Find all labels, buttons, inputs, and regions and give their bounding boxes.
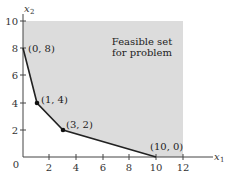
feasible-set-chart: 2 4 6 8 10 12 0 2 4 6 8 10 x 2 x 1 (0, 8… — [0, 0, 237, 185]
svg-text:2: 2 — [30, 8, 34, 16]
x-tick-label: 2 — [46, 162, 52, 173]
point-label-3-2: (3, 2) — [66, 119, 93, 130]
x-tick-label: 4 — [73, 162, 79, 173]
x-tick-label: 12 — [177, 162, 190, 173]
y-axis-label: x 2 — [24, 3, 34, 16]
point-label-0-8: (0, 8) — [28, 43, 55, 54]
point-label-10-0: (10, 0) — [150, 141, 183, 152]
y-tick-labels: 2 4 6 8 10 — [5, 16, 18, 136]
svg-text:1: 1 — [220, 156, 224, 164]
y-tick-label: 2 — [12, 125, 18, 136]
y-tick-label: 10 — [5, 16, 18, 27]
region-label-line1: Feasible set — [112, 36, 172, 47]
origin-label: 0 — [13, 159, 19, 170]
y-tick-label: 6 — [12, 70, 18, 81]
point-label-1-4: (1, 4) — [41, 94, 68, 105]
x-tick-labels: 2 4 6 8 10 12 — [46, 162, 190, 173]
x-tick-label: 6 — [100, 162, 106, 173]
x-axis-label: x 1 — [214, 151, 224, 164]
x-tick-label: 10 — [150, 162, 163, 173]
y-tick-label: 4 — [12, 98, 18, 109]
x-tick-label: 8 — [126, 162, 132, 173]
region-label-line2: for problem — [112, 47, 172, 58]
y-tick-label: 8 — [12, 43, 18, 54]
